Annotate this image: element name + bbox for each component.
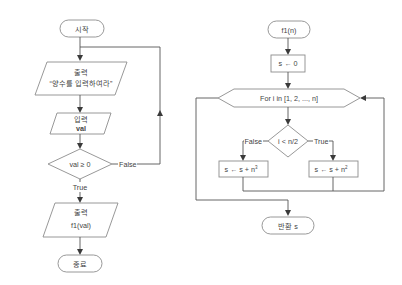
left-flowchart: 시작 출력 “양수를 입력하여라” 입력 val val ≥ 0 <box>35 20 163 272</box>
end-label: 종료 <box>73 260 87 269</box>
function-start-label: f1(n) <box>282 26 297 35</box>
arrow-down-icon <box>285 119 291 125</box>
output2-value: f1(val) <box>71 221 91 230</box>
start-label: 시작 <box>75 25 89 34</box>
decision-i-lt-half-n: i < n/2 <box>268 125 308 157</box>
false-label-2: False <box>244 137 262 146</box>
false-label: False <box>119 160 137 169</box>
true-branch-label: s ← s + n2 <box>314 165 348 174</box>
decision-val-nonnegative: val ≥ 0 <box>48 149 112 179</box>
true-process-box: s ← s + n2 <box>309 161 358 177</box>
for-loop-hexagon: For i in [1, 2, ..., n] <box>218 89 360 107</box>
return-terminator: 반환 s <box>262 217 314 234</box>
return-label: 반환 s <box>278 222 298 231</box>
output2-title: 출력 <box>74 208 88 217</box>
output-parallelogram-prompt: 출력 “양수를 입력하여라” <box>35 62 127 95</box>
input-parallelogram-val: 입력 val <box>50 113 111 134</box>
arrow-down-icon <box>77 197 83 203</box>
arrow-down-icon <box>240 155 246 161</box>
false-process-box: s ← s + n3 <box>219 161 268 177</box>
decision-condition: val ≥ 0 <box>69 160 90 169</box>
arrow-down-icon <box>77 143 83 149</box>
right-flowchart: f1(n) s ← 0 For i in [1, 2, ..., n] i < … <box>196 21 384 234</box>
arrow-down-icon <box>77 249 83 255</box>
arrow-down-icon <box>285 83 291 89</box>
flowchart-canvas: 시작 출력 “양수를 입력하여라” 입력 val val ≥ 0 <box>0 0 402 285</box>
false-branch-label: s ← s + n3 <box>224 165 258 174</box>
init-label: s ← 0 <box>279 59 298 68</box>
function-start-terminator: f1(n) <box>268 21 310 38</box>
loop-label: For i in [1, 2, ..., n] <box>260 94 318 103</box>
end-terminator: 종료 <box>58 255 102 272</box>
arrow-down-icon <box>330 155 336 161</box>
arrow-down-icon <box>285 49 291 55</box>
arrow-down-icon <box>285 210 291 216</box>
arrow-down-icon <box>77 107 83 113</box>
output1-title: 출력 <box>74 68 88 77</box>
output1-value: “양수를 입력하여라” <box>50 79 113 88</box>
true-label: True <box>73 183 88 192</box>
arrow-up-icon <box>157 110 163 116</box>
input1-value: val <box>76 124 86 133</box>
init-process-box: s ← 0 <box>271 55 305 72</box>
decision2-condition: i < n/2 <box>278 137 298 146</box>
arrow-down-icon <box>77 55 83 61</box>
start-terminator: 시작 <box>60 20 104 37</box>
output-parallelogram-result: 출력 f1(val) <box>43 203 118 237</box>
input1-title: 입력 <box>74 115 88 124</box>
true-label-2: True <box>314 137 329 146</box>
arrow-left-icon <box>360 95 366 101</box>
